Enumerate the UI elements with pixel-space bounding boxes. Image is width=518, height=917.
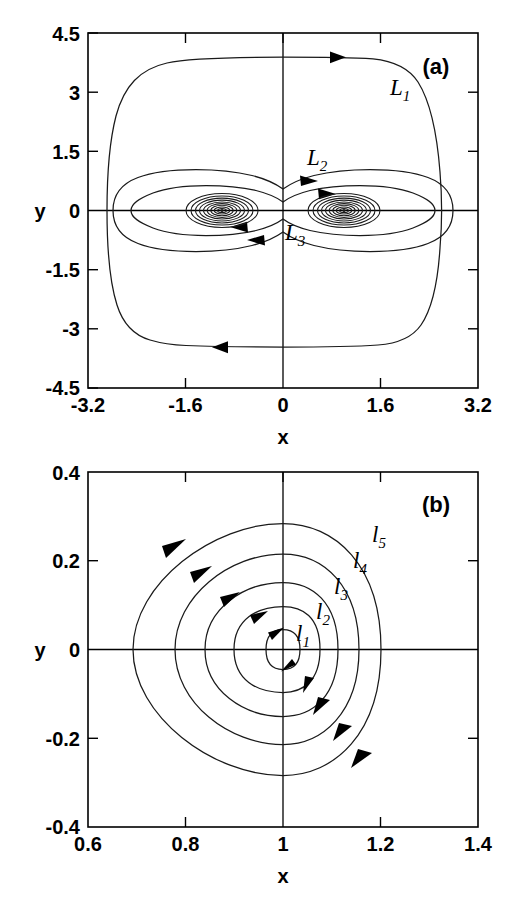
- y-ticklabel-a-5: -3: [62, 318, 80, 340]
- flow-arrow-l4-lower: [333, 723, 352, 741]
- flow-arrow-L1-top: [330, 52, 346, 64]
- x-ticklabels-b: 0.6 0.8 1 1.2 1.4: [74, 833, 493, 855]
- curve-label-l3: l3: [334, 574, 348, 603]
- flow-arrow-L1-bottom: [212, 341, 228, 353]
- flow-arrow-l5-lower: [351, 749, 372, 768]
- panel-a-plot: L1 L2 L3 (a) 4.5 3 1.5 0 -1.5 -3 -4.5 -3…: [0, 0, 518, 455]
- flow-arrow-l1-upper: [268, 628, 284, 641]
- flow-arrow-l3-lower: [313, 697, 330, 715]
- y-ticklabel-a-1: 3: [69, 82, 80, 104]
- x-ticklabel-a-2: 0: [277, 394, 288, 416]
- flow-arrow-l5-upper: [162, 539, 186, 558]
- figure-phase-portraits: L1 L2 L3 (a) 4.5 3 1.5 0 -1.5 -3 -4.5 -3…: [0, 0, 518, 917]
- curve-label-L3: L3: [284, 220, 305, 249]
- flow-arrow-l2-lower: [303, 676, 314, 693]
- x-ticklabel-b-1: 0.8: [172, 833, 200, 855]
- panel-a: L1 L2 L3 (a) 4.5 3 1.5 0 -1.5 -3 -4.5 -3…: [0, 0, 518, 455]
- y-ticklabels-b: 0.4 0.2 0 -0.2 -0.4: [46, 462, 81, 838]
- curve-label-L1: L1: [389, 75, 410, 104]
- panel-b-plot: l1 l2 l3 l4 l5 (b) 0.4 0.2 0 -0.2 -0.4 0…: [0, 450, 518, 917]
- x-axis-title-a: x: [277, 426, 288, 448]
- panel-label-b: (b): [422, 492, 450, 517]
- y-ticklabel-a-2: 1.5: [52, 141, 80, 163]
- curve-label-L2: L2: [306, 145, 328, 174]
- curve-label-l4: l4: [353, 548, 367, 577]
- y-ticklabel-a-0: 4.5: [52, 23, 80, 45]
- x-ticklabel-b-3: 1.2: [367, 833, 395, 855]
- curve-label-l5: l5: [372, 522, 386, 551]
- x-ticklabels-a: -3.2 -1.6 0 1.6 3.2: [71, 394, 492, 416]
- y-ticklabel-a-3: 0: [69, 200, 80, 222]
- y-ticklabel-b-1: 0.2: [52, 550, 80, 572]
- curve-label-l1: l1: [296, 621, 310, 650]
- y-axis-title-a: y: [34, 200, 46, 222]
- y-axis-title-b: y: [34, 639, 46, 661]
- x-ticklabel-a-3: 1.6: [367, 394, 395, 416]
- x-ticklabel-b-0: 0.6: [74, 833, 102, 855]
- panel-b: l1 l2 l3 l4 l5 (b) 0.4 0.2 0 -0.2 -0.4 0…: [0, 450, 518, 917]
- panel-a-axes: [88, 33, 478, 388]
- x-axis-title-b: x: [277, 865, 288, 887]
- x-ticklabel-b-2: 1: [277, 833, 288, 855]
- x-ticklabel-a-4: 3.2: [464, 394, 492, 416]
- y-ticklabel-b-2: 0: [69, 639, 80, 661]
- curve-label-l2: l2: [316, 599, 330, 628]
- panel-label-a: (a): [423, 54, 450, 79]
- x-ticklabel-a-0: -3.2: [71, 394, 105, 416]
- y-ticklabel-a-4: -1.5: [46, 259, 80, 281]
- panel-b-axes: [88, 472, 478, 827]
- y-ticklabel-b-0: 0.4: [52, 462, 81, 484]
- y-ticklabels-a: 4.5 3 1.5 0 -1.5 -3 -4.5: [46, 23, 80, 399]
- flow-arrow-l3-upper: [220, 592, 240, 607]
- flow-arrow-l4-upper: [190, 566, 212, 583]
- flow-arrow-l2-upper: [250, 611, 268, 624]
- x-ticklabel-b-4: 1.4: [464, 833, 493, 855]
- x-ticklabel-a-1: -1.6: [168, 394, 202, 416]
- y-ticklabel-b-3: -0.2: [46, 728, 80, 750]
